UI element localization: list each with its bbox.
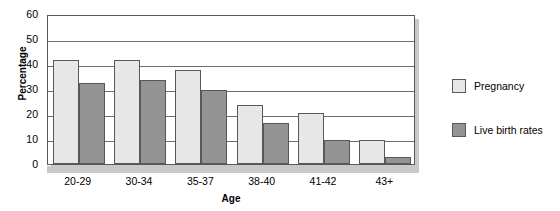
bar (324, 140, 350, 164)
bar (114, 60, 140, 164)
y-axis-tick-label: 20 (0, 109, 38, 120)
y-axis-tick-label: 40 (0, 59, 38, 70)
x-axis-tick-label: 41-42 (292, 176, 353, 187)
plot-area (47, 15, 415, 165)
bar-group (114, 16, 166, 164)
bar (385, 157, 411, 165)
y-axis-tick-label: 10 (0, 134, 38, 145)
legend-swatch-icon-pregnancy (452, 79, 466, 93)
legend-label-pregnancy: Pregnancy (474, 80, 524, 92)
bar-group (175, 16, 227, 164)
bar-chart: Percentage 0102030405060 20-2930-3435-37… (0, 0, 560, 211)
bar (298, 113, 324, 164)
bar (79, 83, 105, 164)
bar (140, 80, 166, 164)
y-axis-tick-label: 30 (0, 84, 38, 95)
legend-item-pregnancy: Pregnancy (452, 78, 560, 94)
bar-group (53, 16, 105, 164)
bar (263, 123, 289, 164)
bar (175, 70, 201, 164)
x-axis-tick-labels: 20-2930-3435-3738-4041-4243+ (47, 176, 415, 190)
x-axis-baseline-strip (47, 166, 419, 173)
bar (359, 140, 385, 164)
chart-legend: Pregnancy Live birth rates (452, 78, 560, 166)
x-axis-tick-label: 38-40 (231, 176, 292, 187)
bar (201, 90, 227, 164)
y-axis-tick-label: 60 (0, 9, 38, 20)
bar-group (298, 16, 350, 164)
legend-swatch-icon-live-birth-rates (452, 123, 466, 137)
x-axis-tick-label: 30-34 (108, 176, 169, 187)
bar-group (237, 16, 289, 164)
x-axis-tick-label: 43+ (354, 176, 415, 187)
y-axis-tick-label: 0 (0, 159, 38, 170)
y-axis-tick-labels: 0102030405060 (0, 0, 44, 211)
bar-group (359, 16, 411, 164)
x-axis-tick-label: 20-29 (47, 176, 108, 187)
x-axis-title: Age (47, 193, 415, 204)
bars-layer (48, 16, 414, 164)
y-axis-tick-label: 50 (0, 34, 38, 45)
x-axis-tick-label: 35-37 (170, 176, 231, 187)
legend-label-live-birth-rates: Live birth rates (474, 124, 543, 136)
legend-item-live-birth-rates: Live birth rates (452, 122, 560, 138)
bar (237, 105, 263, 164)
bar (53, 60, 79, 164)
